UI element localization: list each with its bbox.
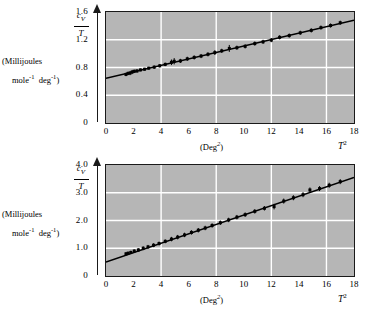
x-tick-label: 2 [124, 127, 144, 136]
data-point [142, 247, 145, 250]
y-axis-line-copper [97, 12, 98, 122]
data-point [228, 47, 231, 50]
data-point [262, 40, 265, 43]
data-point [158, 242, 161, 245]
data-point [173, 60, 176, 63]
y-tick-value: 1.0 [48, 243, 88, 252]
data-point [193, 56, 196, 59]
data-point [211, 224, 214, 227]
y-tick-value: 4.0 [48, 160, 88, 169]
x-tick-label: 8 [206, 127, 226, 136]
data-point [219, 221, 222, 224]
x-tick-label: 16 [316, 280, 336, 289]
data-point [133, 70, 136, 73]
data-point [227, 218, 230, 221]
data-point [220, 49, 223, 52]
data-point [139, 68, 142, 71]
x-tick-label: 4 [151, 127, 171, 136]
y-tick-label: 1.0 [48, 243, 88, 253]
y-tick-value: 0 [48, 118, 88, 127]
data-point [339, 21, 342, 24]
data-point [143, 68, 146, 71]
x-tick-label: 10 [234, 127, 254, 136]
y-tick-label: 1.6 [48, 7, 88, 17]
data-point [213, 51, 216, 54]
specific-heat-figure: cV T (Millijoules mole-1 deg-1) 00.40.81… [0, 0, 368, 309]
y-tick-value: 0.4 [48, 90, 88, 99]
x-tick-label: 2 [124, 280, 144, 289]
data-point [152, 244, 155, 247]
data-point [292, 196, 295, 199]
y-tick-label: 0.4 [48, 90, 88, 100]
x-tick-label: 8 [206, 280, 226, 289]
data-point [319, 26, 322, 29]
y-tick-label: 0 [48, 118, 88, 128]
data-point [318, 187, 321, 190]
data-point [270, 39, 273, 42]
data-point [339, 180, 342, 183]
data-point [197, 229, 200, 232]
data-point [310, 29, 313, 32]
x-tick-label: 12 [261, 280, 281, 289]
y-tick-label: 1.2 [48, 35, 88, 45]
data-point [153, 66, 156, 69]
data-point [253, 210, 256, 213]
data-point [206, 53, 209, 56]
data-point [282, 200, 285, 203]
data-point [328, 184, 331, 187]
fraction-bar [74, 179, 89, 180]
data-point [164, 63, 167, 66]
data-point [200, 55, 203, 58]
data-point [273, 205, 276, 208]
y-tick-value: 2.0 [48, 216, 88, 225]
data-point [204, 226, 207, 229]
data-point [158, 64, 161, 67]
data-point [133, 250, 136, 253]
y-tick-label: 3.0 [48, 188, 88, 198]
data-point [170, 61, 173, 64]
data-point [299, 31, 302, 34]
data-point [183, 233, 186, 236]
data-point [190, 231, 193, 234]
data-point [127, 252, 130, 255]
plot-canvas-copper [106, 12, 354, 123]
x-tick-label: 6 [179, 280, 199, 289]
data-point [136, 69, 139, 72]
y-axis-line-silver [97, 165, 98, 275]
y-tick-label: 4.0 [48, 160, 88, 170]
data-point [244, 45, 247, 48]
data-point [179, 59, 182, 62]
chart-panel-copper: cV T (Millijoules mole-1 deg-1) 00.40.81… [0, 0, 368, 152]
plot-canvas-silver [106, 165, 354, 276]
x-tick-label: 16 [316, 127, 336, 136]
fraction-bar [74, 26, 89, 27]
y-tick-label: 0.8 [48, 63, 88, 73]
x-tick-label: 12 [261, 127, 281, 136]
plot-area-silver: Silver [105, 164, 355, 277]
x-axis-unit-silver: (Deg2) [200, 292, 223, 305]
x-tick-label: 6 [179, 127, 199, 136]
data-point [164, 240, 167, 243]
x-axis-unit-copper: (Deg2) [200, 139, 223, 152]
data-point [186, 57, 189, 60]
data-point [137, 248, 140, 251]
data-point [288, 34, 291, 37]
data-point [329, 24, 332, 27]
data-point [253, 42, 256, 45]
x-tick-label: 10 [234, 280, 254, 289]
y-tick-value: 0.8 [48, 63, 88, 72]
y-tick-label: 0 [48, 271, 88, 281]
x-tick-label: 4 [151, 280, 171, 289]
x-axis-name-copper: T2 [338, 139, 347, 151]
data-point [176, 236, 179, 239]
data-point [235, 216, 238, 219]
x-tick-label: 18 [344, 127, 364, 136]
data-point [235, 46, 238, 49]
y-tick-value: 1.2 [48, 35, 88, 44]
y-tick-label: 2.0 [48, 216, 88, 226]
data-point [170, 238, 173, 241]
data-point [147, 67, 150, 70]
data-point [308, 188, 311, 191]
y-tick-value: 0 [48, 271, 88, 280]
plot-area-copper: Copper [105, 11, 355, 124]
